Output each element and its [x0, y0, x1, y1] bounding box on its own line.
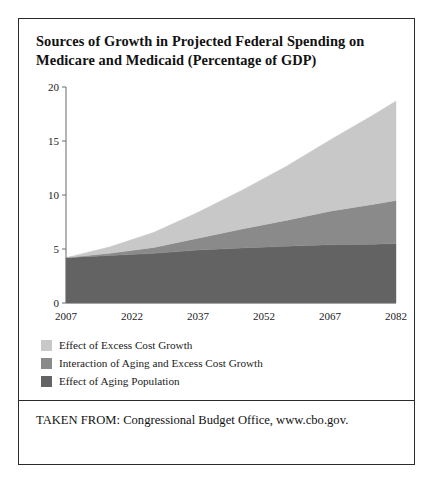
page-title: Sources of Growth in Projected Federal S… — [36, 32, 398, 70]
y-tick-label: 0 — [54, 297, 60, 309]
x-tick-label: 2052 — [253, 310, 275, 322]
source-attribution: TAKEN FROM: Congressional Budget Office,… — [19, 401, 414, 428]
x-axis-tick-labels: 200720222037205220672082 — [55, 310, 407, 322]
chart-plot-area: 05101520 200720222037205220672082 — [19, 79, 413, 327]
legend-swatch-interaction — [41, 358, 52, 369]
stacked-area-chart: 05101520 200720222037205220672082 — [19, 79, 413, 327]
y-tick-label: 20 — [48, 81, 60, 93]
y-axis-tick-labels: 05101520 — [48, 81, 60, 309]
x-tick-label: 2007 — [55, 310, 78, 322]
figure-frame: Sources of Growth in Projected Federal S… — [18, 18, 415, 465]
y-tick-label: 15 — [48, 135, 60, 147]
y-tick-label: 5 — [54, 243, 60, 255]
y-tick-label: 10 — [48, 189, 60, 201]
title-block: Sources of Growth in Projected Federal S… — [19, 19, 414, 70]
x-tick-label: 2022 — [121, 310, 143, 322]
legend-label-aging-population: Effect of Aging Population — [59, 375, 180, 387]
chart-legend: Effect of Excess Cost Growth Interaction… — [41, 337, 414, 389]
chart-areas — [66, 101, 396, 303]
legend-swatch-aging-population — [41, 376, 52, 387]
x-tick-label: 2082 — [385, 310, 407, 322]
legend-item-aging-population: Effect of Aging Population — [41, 373, 414, 389]
chart-title-line-2: Medicare and Medicaid (Percentage of GDP… — [36, 52, 317, 68]
legend-item-interaction: Interaction of Aging and Excess Cost Gro… — [41, 355, 414, 371]
legend-swatch-excess-cost-growth — [41, 340, 52, 351]
x-tick-label: 2037 — [187, 310, 210, 322]
x-tick-label: 2067 — [319, 310, 342, 322]
legend-label-interaction: Interaction of Aging and Excess Cost Gro… — [59, 357, 263, 369]
legend-label-excess-cost-growth: Effect of Excess Cost Growth — [59, 339, 192, 351]
chart-title-line-1: Sources of Growth in Projected Federal S… — [36, 33, 364, 49]
legend-item-excess-cost-growth: Effect of Excess Cost Growth — [41, 337, 414, 353]
